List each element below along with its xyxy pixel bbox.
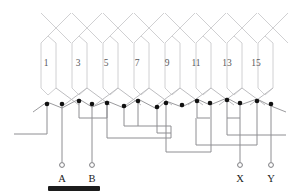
terminal-label-A: A — [58, 173, 66, 184]
node-dot — [255, 99, 260, 104]
node-dot — [269, 102, 274, 107]
winding-diagram-figure: 1 3 5 7 9 11 13 15 A B X Y — [0, 0, 293, 195]
terminal-labels: A B X Y — [58, 173, 275, 184]
node-dot — [208, 101, 213, 106]
terminal-label-X: X — [236, 173, 244, 184]
coil-number-3: 3 — [76, 58, 81, 68]
terminal-ring-A[interactable] — [60, 163, 65, 168]
coil-number-7: 7 — [135, 58, 140, 68]
node-dot — [122, 104, 127, 109]
node-dot — [60, 102, 65, 107]
terminal-ring-X[interactable] — [238, 163, 243, 168]
node-dot — [180, 103, 185, 108]
terminal-ring-Y[interactable] — [269, 163, 274, 168]
connection-wires — [14, 100, 286, 152]
node-dot — [105, 101, 110, 106]
node-dot — [238, 101, 243, 106]
node-dot — [77, 99, 82, 104]
node-dot — [136, 99, 141, 104]
coil-number-9: 9 — [165, 58, 170, 68]
node-dot — [225, 98, 230, 103]
node-dot — [155, 105, 160, 110]
node-dot — [90, 102, 95, 107]
node-dot — [45, 102, 50, 107]
terminal-ring-B[interactable] — [90, 163, 95, 168]
terminal-rings — [60, 163, 274, 168]
node-dot — [164, 101, 169, 106]
coil-number-1: 1 — [44, 58, 49, 68]
terminal-label-Y: Y — [267, 173, 275, 184]
coil-number-11: 11 — [191, 58, 200, 68]
node-dot — [195, 99, 200, 104]
coil-number-labels: 1 3 5 7 9 11 13 15 — [44, 58, 261, 68]
winding-diagram-canvas: 1 3 5 7 9 11 13 15 A B X Y — [0, 0, 293, 195]
winding-chevron-caps-top — [41, 36, 273, 43]
caption-bar — [48, 186, 100, 191]
winding-upper-overhang — [41, 13, 288, 43]
coil-number-15: 15 — [251, 58, 261, 68]
coil-number-5: 5 — [104, 58, 109, 68]
terminal-label-B: B — [88, 173, 95, 184]
coil-number-13: 13 — [222, 58, 232, 68]
